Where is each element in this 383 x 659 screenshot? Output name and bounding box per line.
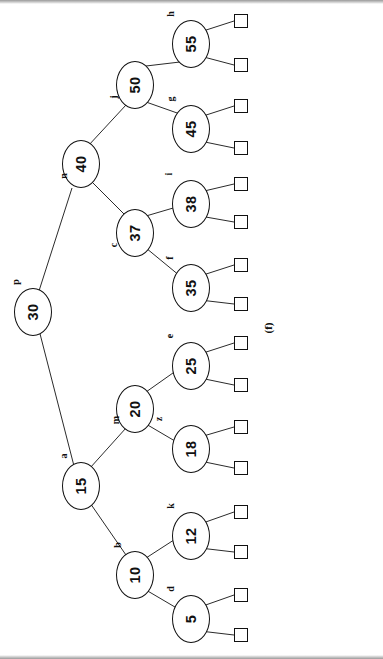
tree-edge [90,180,126,216]
tree-node[interactable]: 10 [116,551,154,599]
tree-external-leaf[interactable] [234,505,248,519]
tree-node-tag: e [165,334,175,338]
tree-node-tag: k [166,503,176,509]
tree-edge [146,102,180,114]
tree-node[interactable]: 12 [172,512,210,560]
figure-caption: (f) [262,323,274,334]
tree-external-leaf[interactable] [234,461,248,475]
tree-external-leaf[interactable] [234,545,248,559]
tree-external-leaf[interactable] [234,336,248,350]
tree-node-tag: n [59,173,69,179]
tree-edge [90,428,126,468]
tree-node-tag: i [164,173,174,176]
figure-canvas: 30154010203750512182535384555 panbmcjdkz… [0,0,383,659]
tree-node-key: 10 [127,566,143,583]
tree-node-tag: h [166,11,176,17]
tree-node-key: 20 [127,400,143,417]
tree-edge [38,188,72,294]
tree-node[interactable]: 5 [172,595,210,643]
tree-node-key: 18 [183,440,199,457]
tree-node-key: 30 [25,303,41,320]
tree-node-tag: z [154,417,164,421]
tree-node[interactable]: 18 [172,425,210,473]
tree-external-leaf[interactable] [234,258,248,272]
tree-external-leaf[interactable] [234,215,248,229]
tree-node[interactable]: 50 [116,61,154,109]
tree-edge [88,105,126,146]
tree-node-key: 37 [127,224,143,241]
tree-node[interactable]: 38 [172,180,210,228]
tree-edge [38,326,74,466]
tree-node-tag: j [109,95,119,98]
tree-node[interactable]: 55 [172,20,210,68]
tree-node-key: 55 [183,35,199,52]
tree-node[interactable]: 15 [62,462,100,510]
tree-node-tag: f [165,256,175,259]
tree-external-leaf[interactable] [234,420,248,434]
tree-node-tag: d [166,586,176,592]
tree-node-key: 40 [73,155,89,172]
tree-external-leaf[interactable] [234,588,248,602]
tree-edges [0,0,383,659]
tree-node-tag: m [111,416,121,424]
tree-node[interactable]: 35 [172,264,210,312]
tree-node-key: 38 [183,195,199,212]
tree-node-key: 5 [183,615,199,624]
tree-external-leaf[interactable] [234,58,248,72]
tree-node-key: 45 [183,120,199,137]
tree-node-tag: p [11,279,21,285]
tree-external-leaf[interactable] [234,378,248,392]
tree-node-tag: g [166,97,176,102]
tree-edge [146,248,180,276]
tree-node-key: 50 [127,76,143,93]
tree-node[interactable]: 30 [14,288,52,336]
tree-node[interactable]: 37 [116,209,154,257]
tree-node-key: 25 [183,357,199,374]
tree-node-key: 15 [73,477,89,494]
tree-node[interactable]: 25 [172,342,210,390]
tree-external-leaf[interactable] [234,628,248,642]
tree-external-leaf[interactable] [234,99,248,113]
tree-node-tag: c [109,243,119,247]
tree-edge [146,62,180,66]
tree-external-leaf[interactable] [234,14,248,28]
tree-node-tag: a [59,454,69,459]
tree-node-key: 12 [183,527,199,544]
tree-external-leaf[interactable] [234,297,248,311]
tree-external-leaf[interactable] [234,141,248,155]
tree-node[interactable]: 20 [116,385,154,433]
tree-node-tag: b [113,542,123,548]
tree-node[interactable]: 40 [62,140,100,188]
tree-node[interactable]: 45 [172,105,210,153]
tree-node-key: 35 [183,279,199,296]
tree-external-leaf[interactable] [234,177,248,191]
